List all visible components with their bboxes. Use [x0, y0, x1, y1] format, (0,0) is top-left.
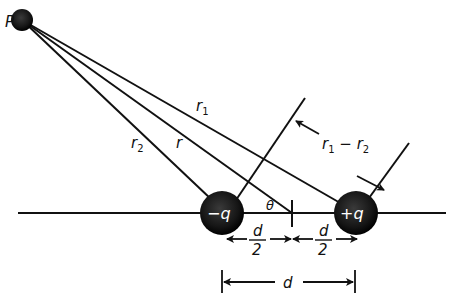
half-spacing-right-denominator: 2 — [318, 241, 328, 259]
line-r2 — [22, 20, 212, 200]
half-spacing-left-numerator: d — [253, 222, 263, 240]
line-r1 — [22, 20, 342, 204]
perpendicular-line-positive — [369, 143, 409, 198]
full-spacing-label: d — [283, 274, 293, 292]
dipole-diagram: P −q +q r1 r2 r r1 − r2 θ d 2 d 2 d — [0, 0, 454, 307]
label-r2: r2 — [131, 134, 144, 154]
point-p-label: P — [5, 13, 15, 31]
label-r1-minus-r2: r1 − r2 — [322, 135, 369, 155]
line-r — [22, 20, 292, 213]
label-r: r — [176, 134, 183, 152]
half-spacing-right-numerator: d — [319, 222, 329, 240]
point-p — [11, 9, 33, 31]
negative-charge-label: −q — [207, 204, 231, 223]
label-r1: r1 — [196, 97, 209, 117]
difference-arrow-upper — [296, 121, 319, 134]
half-spacing-left-denominator: 2 — [252, 241, 262, 259]
positive-charge-label: +q — [340, 204, 364, 223]
angle-theta-label: θ — [266, 198, 274, 213]
